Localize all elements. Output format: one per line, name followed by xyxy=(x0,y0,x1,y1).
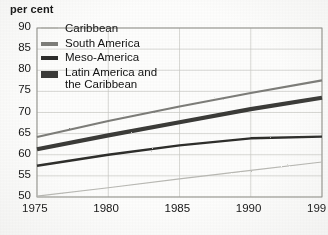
legend-item: Meso-America xyxy=(41,51,221,64)
legend-swatch-icon xyxy=(41,42,58,46)
legend-label: South America xyxy=(65,37,140,50)
legend-item: South America xyxy=(41,37,221,50)
x-tick-label: 1990 xyxy=(236,202,262,214)
y-tick-label: 90 xyxy=(3,21,31,32)
legend-item: Latin America and the Caribbean xyxy=(41,66,221,91)
legend-label: Latin America and the Caribbean xyxy=(65,66,157,91)
x-tick-label: 199 xyxy=(307,202,326,214)
y-axis-tick-labels: 908580757065605550 xyxy=(0,0,31,235)
y-tick-label: 60 xyxy=(3,148,31,159)
x-tick-label: 1975 xyxy=(22,202,48,214)
legend-label: Caribbean xyxy=(65,22,118,35)
x-axis-tick-labels: 1975198019851990199 xyxy=(0,202,328,222)
legend-item: Caribbean xyxy=(41,22,221,35)
chart-figure: per cent 908580757065605550 197519801985… xyxy=(0,0,328,235)
y-tick-label: 70 xyxy=(3,106,31,117)
legend-swatch-icon xyxy=(41,71,58,78)
legend-label: Meso-America xyxy=(65,51,139,64)
legend-swatch-icon xyxy=(41,27,58,29)
chart-legend: CaribbeanSouth AmericaMeso-AmericaLatin … xyxy=(41,22,221,93)
y-tick-label: 55 xyxy=(3,169,31,180)
y-tick-label: 80 xyxy=(3,63,31,74)
x-tick-label: 1980 xyxy=(93,202,119,214)
y-tick-label: 50 xyxy=(3,190,31,201)
y-tick-label: 65 xyxy=(3,127,31,138)
y-tick-label: 85 xyxy=(3,42,31,53)
y-tick-label: 75 xyxy=(3,84,31,95)
legend-swatch-icon xyxy=(41,56,58,60)
x-tick-label: 1985 xyxy=(165,202,191,214)
